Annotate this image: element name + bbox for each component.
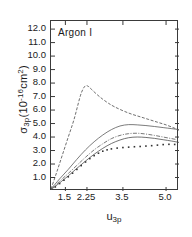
y-tick-label: 5.0	[33, 118, 46, 128]
series-curve-4-lower-solid	[51, 137, 179, 190]
plot-curves	[51, 21, 179, 191]
y-tick-label: 1.0	[33, 172, 46, 182]
y-tick-label: 4.0	[33, 131, 46, 141]
y-tick-label: 6.0	[33, 104, 46, 114]
y-tick-label: 3.0	[33, 145, 46, 155]
x-tick-label: 2.25	[77, 192, 96, 202]
y-tick-label: 8.0	[33, 77, 46, 87]
y-tick-label: 9.0	[33, 64, 46, 74]
x-axis-label: u3p	[50, 210, 178, 224]
series-curve-1-peaked-dashed	[51, 86, 179, 189]
y-tick-label: 2.0	[33, 158, 46, 168]
argon-cross-section-chart: σ3p(10-16cm2) u3p 1.02.03.04.05.06.07.08…	[0, 0, 192, 237]
chart-title: Argon I	[58, 27, 92, 38]
y-tick-label: 11.0	[28, 37, 46, 47]
y-tick-label: 7.0	[33, 91, 46, 101]
series-curve-5-dotted-experimental	[55, 144, 176, 188]
x-tick-label: 3.5	[115, 192, 128, 202]
x-tick-label: 5.0	[158, 192, 171, 202]
y-tick-label: 12.0	[28, 23, 47, 33]
y-axis-tick-labels: 1.02.03.04.05.06.07.08.09.010.011.012.0	[14, 20, 46, 190]
series-curve-2-upper-solid	[51, 125, 179, 189]
x-axis-label-subscript: 3p	[113, 215, 122, 224]
y-tick-label: 10.0	[28, 50, 47, 60]
plot-area	[50, 20, 178, 190]
x-axis-tick-labels: 1.52.253.55.0	[50, 192, 178, 206]
x-tick-label: 1.5	[58, 192, 71, 202]
